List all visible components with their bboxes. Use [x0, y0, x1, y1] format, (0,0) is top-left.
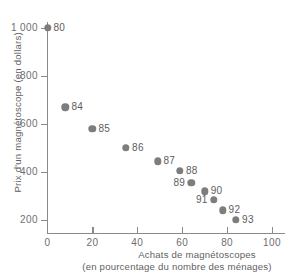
data-point [122, 144, 129, 151]
data-point-label: 92 [229, 204, 241, 215]
data-point [219, 207, 226, 214]
y-tick-mark [41, 220, 47, 221]
data-point [154, 157, 161, 164]
y-tick-mark [41, 76, 47, 77]
x-tick-label: 40 [117, 237, 157, 248]
y-axis-line [47, 22, 48, 234]
y-tick-label: 200 [0, 214, 38, 225]
y-tick-mark [41, 172, 47, 173]
data-point-label: 90 [211, 185, 223, 196]
data-point-label: 86 [132, 142, 144, 153]
data-point-label: 89 [165, 176, 185, 187]
x-tick-label: 60 [162, 237, 202, 248]
x-tick-label: 100 [252, 237, 292, 248]
x-tick-mark [182, 227, 183, 233]
x-tick-label: 0 [28, 237, 68, 248]
data-point [89, 125, 96, 132]
x-tick-mark [92, 227, 93, 233]
x-tick-mark [137, 227, 138, 233]
data-point-label: 87 [164, 155, 176, 166]
x-tick-mark [272, 227, 273, 233]
y-axis-title: Prix d'un magnétoscope (en dollars) [12, 43, 23, 193]
x-axis-title-line2: (en pourcentage du nombre des ménages) [62, 261, 292, 272]
data-point-label: 91 [188, 193, 208, 204]
data-point-label: 93 [242, 214, 254, 225]
data-point [210, 196, 217, 203]
data-point [176, 167, 183, 174]
y-tick-label: 1 000 [0, 22, 38, 33]
x-tick-label: 80 [207, 237, 247, 248]
data-point-label: 84 [71, 101, 83, 112]
data-point [62, 103, 69, 110]
scatter-chart-figure: 2004006008001 000 020406080100 808485868… [0, 0, 302, 273]
data-point [44, 24, 51, 31]
data-point [232, 216, 239, 223]
x-tick-label: 20 [72, 237, 112, 248]
y-tick-mark [41, 124, 47, 125]
x-tick-mark [227, 227, 228, 233]
data-point [187, 179, 194, 186]
data-point-label: 88 [186, 164, 198, 175]
data-point-label: 80 [54, 22, 66, 33]
x-axis-title-line1: Achats de magnétoscopes [102, 249, 292, 260]
x-axis-line [47, 233, 285, 234]
data-point-label: 85 [98, 122, 110, 133]
